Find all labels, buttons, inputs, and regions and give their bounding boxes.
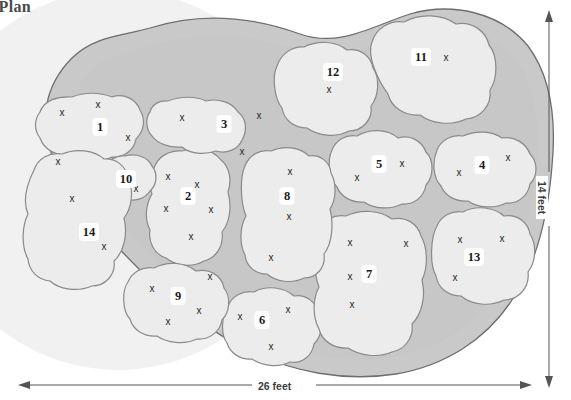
plant-marker-bed-6-1: x	[238, 311, 243, 322]
planting-bed-2[interactable]	[146, 149, 230, 266]
plant-marker-bed-12-1: x	[327, 84, 332, 95]
garden-plan-diagram: xxxxxxxxxxxxxxxxxxxxxxxxxxxxxxxxxxxxxx12…	[0, 0, 571, 400]
page-title: g Plan	[0, 0, 31, 16]
plant-marker-bed-13-1: x	[458, 234, 463, 245]
plant-marker-bed-2-2: x	[195, 179, 200, 190]
plant-marker-bed-2-3: x	[164, 203, 169, 214]
plant-marker-bed-13-2: x	[500, 233, 505, 244]
plant-marker-bed-8-2: x	[287, 211, 292, 222]
plant-marker-bed-9-1: x	[150, 283, 155, 294]
bed-number-label-3: 3	[221, 117, 227, 131]
bed-number-label-5: 5	[376, 157, 382, 171]
bed-number-label-8: 8	[284, 189, 290, 203]
bed-number-label-14: 14	[83, 225, 96, 239]
plant-marker-bed-1-1: x	[60, 107, 65, 118]
plant-marker-bed-8-3: x	[269, 252, 274, 263]
plant-marker-bed-11-1: x	[444, 52, 449, 63]
plant-marker-bed-9-3: x	[197, 305, 202, 316]
plant-marker-bed-5-2: x	[400, 158, 405, 169]
plant-marker-bed-3-3: x	[240, 146, 245, 157]
bed-number-label-13: 13	[468, 250, 481, 264]
plant-marker-bed-7-4: x	[350, 299, 355, 310]
bed-number-label-6: 6	[259, 313, 265, 327]
plant-marker-bed-14-2: x	[70, 193, 75, 204]
planting-bed-1[interactable]	[36, 93, 144, 161]
bed-number-label-1: 1	[97, 120, 103, 134]
bed-number-label-12: 12	[327, 65, 340, 79]
plant-marker-bed-7-3: x	[348, 271, 353, 282]
plant-marker-bed-13-3: x	[453, 272, 458, 283]
bed-number-label-9: 9	[175, 289, 181, 303]
plant-marker-bed-2-4: x	[209, 204, 214, 215]
plant-marker-bed-7-2: x	[404, 238, 409, 249]
plant-marker-bed-4-1: x	[457, 167, 462, 178]
dimension-label-width: 26 feet	[253, 380, 296, 392]
plant-marker-bed-7-1: x	[348, 237, 353, 248]
plant-marker-bed-4-2: x	[506, 152, 511, 163]
bed-number-label-11: 11	[415, 50, 427, 64]
plant-marker-bed-1-3: x	[126, 132, 131, 143]
planting-bed-6[interactable]	[223, 288, 322, 366]
plant-marker-bed-6-2: x	[286, 304, 291, 315]
bed-number-label-7: 7	[366, 267, 372, 281]
plant-marker-bed-2-5: x	[189, 231, 194, 242]
plant-marker-bed-2-1: x	[166, 171, 171, 182]
plant-marker-bed-9-2: x	[208, 271, 213, 282]
plan-svg-canvas: xxxxxxxxxxxxxxxxxxxxxxxxxxxxxxxxxxxxxx12…	[0, 0, 571, 400]
bed-number-label-2: 2	[185, 189, 191, 203]
plant-marker-bed-3-2: x	[257, 110, 262, 121]
plant-marker-bed-8-1: x	[288, 166, 293, 177]
dimension-label-height: 14 feet	[536, 176, 548, 219]
bed-number-label-4: 4	[479, 158, 486, 172]
bed-number-label-10: 10	[120, 172, 133, 186]
plant-marker-bed-9-4: x	[166, 316, 171, 327]
plant-marker-bed-5-1: x	[355, 172, 360, 183]
plant-marker-bed-1-2: x	[96, 99, 101, 110]
plant-marker-bed-14-3: x	[102, 241, 107, 252]
plant-marker-bed-6-3: x	[269, 341, 274, 352]
plant-marker-bed-14-1: x	[56, 156, 61, 167]
plant-marker-bed-3-1: x	[180, 112, 185, 123]
